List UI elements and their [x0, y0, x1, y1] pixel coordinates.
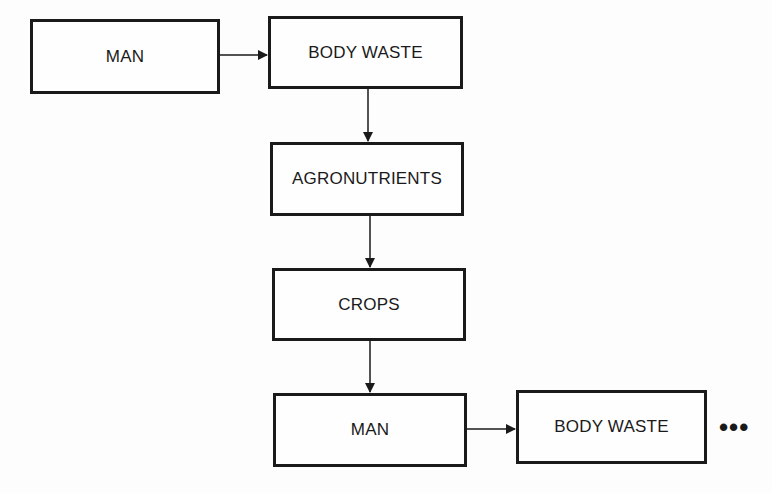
node-crops: CROPS [272, 268, 466, 341]
node-man-2: MAN [273, 393, 467, 467]
node-man-1: MAN [30, 19, 220, 94]
node-label: MAN [106, 47, 144, 67]
node-label: BODY WASTE [308, 43, 422, 63]
node-label: CROPS [338, 295, 399, 315]
node-body-waste-2: BODY WASTE [516, 390, 707, 464]
node-label: MAN [351, 420, 389, 440]
node-label: BODY WASTE [554, 417, 668, 437]
node-body-waste-1: BODY WASTE [268, 16, 463, 89]
continuation-ellipsis: ••• [719, 414, 749, 440]
node-agronutrients: AGRONUTRIENTS [270, 142, 464, 216]
node-label: AGRONUTRIENTS [292, 169, 442, 189]
